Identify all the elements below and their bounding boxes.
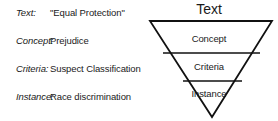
legend-value-instance: Race discrimination <box>50 90 131 104</box>
legend-list: Text: "Equal Protection" Concept: Prejud… <box>0 0 150 121</box>
legend-value-concept: Prejudice <box>50 34 89 48</box>
legend-row-criteria: Criteria: Suspect Classification <box>0 62 150 76</box>
legend-label-concept: Concept: <box>16 34 53 48</box>
legend-row-concept: Concept: Prejudice <box>0 34 150 48</box>
legend-label-criteria: Criteria: <box>16 62 48 76</box>
legend-row-text: Text: "Equal Protection" <box>0 6 150 20</box>
funnel-diagram: Text Concept Criteria Instance <box>140 0 278 121</box>
legend-row-instance: Instance: Race discrimination <box>0 90 150 104</box>
funnel-band-instance: Instance <box>140 87 278 100</box>
figure-canvas: Text: "Equal Protection" Concept: Prejud… <box>0 0 278 121</box>
funnel-band-concept: Concept <box>140 32 278 45</box>
legend-label-instance: Instance: <box>16 90 54 104</box>
legend-label-text: Text: <box>16 6 36 20</box>
legend-value-text: "Equal Protection" <box>50 6 125 20</box>
funnel-band-criteria: Criteria <box>140 60 278 73</box>
legend-value-criteria: Suspect Classification <box>50 62 141 76</box>
